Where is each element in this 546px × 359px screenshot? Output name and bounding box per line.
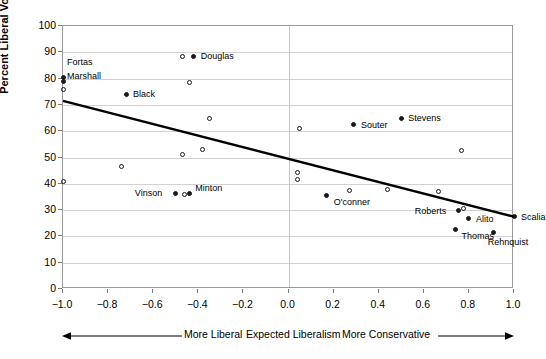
x-tick-label: −0.2 bbox=[220, 299, 264, 310]
x-tick-label: 0.2 bbox=[311, 299, 355, 310]
point-label-scalia: Scalia bbox=[521, 212, 546, 222]
y-tick-label: 10 bbox=[14, 257, 56, 267]
x-tick-mark bbox=[468, 289, 469, 293]
x-tick-label: 0.4 bbox=[356, 299, 400, 310]
y-tick-label: 70 bbox=[14, 99, 56, 109]
x-tick-mark bbox=[107, 289, 108, 293]
x-tick-mark bbox=[513, 289, 514, 293]
y-tick-label: 100 bbox=[14, 20, 56, 30]
x-tick-mark bbox=[197, 289, 198, 293]
x-tick-label: −1.0 bbox=[40, 299, 84, 310]
expected-liberalism-label: Expected Liberalism bbox=[246, 328, 341, 340]
left-arrow-icon bbox=[62, 329, 182, 343]
right-arrow-icon bbox=[438, 329, 514, 343]
y-tick-label: 40 bbox=[14, 178, 56, 188]
y-tick-label: 0 bbox=[14, 283, 56, 293]
plot-area: FortasMarshallDouglasBlackSouterStevensV… bbox=[62, 25, 513, 288]
y-tick-label: 50 bbox=[14, 152, 56, 162]
x-tick-mark bbox=[423, 289, 424, 293]
x-tick-mark bbox=[62, 289, 63, 293]
x-tick-label: 1.0 bbox=[491, 299, 535, 310]
x-tick-label: −0.4 bbox=[175, 299, 219, 310]
chart-canvas: Percent Liberal Votes 010203040506070809… bbox=[0, 0, 546, 359]
y-tick-label: 60 bbox=[14, 125, 56, 135]
axis-direction-annotation: More Liberal Expected Liberalism More Co… bbox=[62, 327, 513, 345]
x-tick-label: −0.8 bbox=[85, 299, 129, 310]
x-tick-label: 0.6 bbox=[401, 299, 445, 310]
x-tick-mark bbox=[152, 289, 153, 293]
more-liberal-label: More Liberal bbox=[184, 328, 242, 340]
x-tick-mark bbox=[333, 289, 334, 293]
y-axis-title: Percent Liberal Votes bbox=[0, 0, 10, 98]
x-tick-mark bbox=[378, 289, 379, 293]
y-tick-label: 80 bbox=[14, 73, 56, 83]
x-tick-mark bbox=[242, 289, 243, 293]
y-tick-label: 30 bbox=[14, 204, 56, 214]
x-tick-mark bbox=[288, 289, 289, 293]
y-tick-label: 20 bbox=[14, 230, 56, 240]
y-tick-label: 90 bbox=[14, 46, 56, 56]
regression-line bbox=[63, 26, 514, 289]
x-tick-label: −0.6 bbox=[130, 299, 174, 310]
more-conservative-label: More Conservative bbox=[342, 328, 430, 340]
x-tick-label: 0.0 bbox=[266, 299, 310, 310]
x-tick-label: 0.8 bbox=[446, 299, 490, 310]
